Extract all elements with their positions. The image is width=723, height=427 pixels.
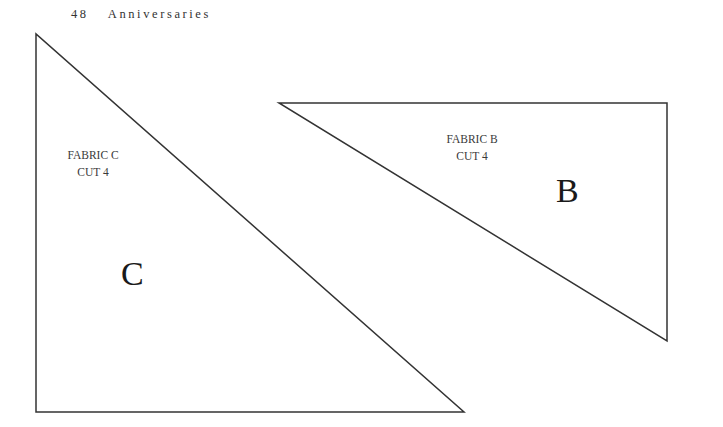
piece-c-letter: C <box>121 257 144 291</box>
piece-c-cut-label: CUT 4 <box>58 164 128 181</box>
pattern-pieces <box>0 0 723 427</box>
piece-b-cut-label: CUT 4 <box>437 148 507 165</box>
pattern-piece-c-outline <box>36 34 464 412</box>
piece-c-instructions: FABRIC C CUT 4 <box>58 147 128 181</box>
piece-b-fabric-label: FABRIC B <box>437 131 507 148</box>
piece-b-instructions: FABRIC B CUT 4 <box>437 131 507 165</box>
piece-b-letter: B <box>556 174 579 208</box>
piece-c-fabric-label: FABRIC C <box>58 147 128 164</box>
